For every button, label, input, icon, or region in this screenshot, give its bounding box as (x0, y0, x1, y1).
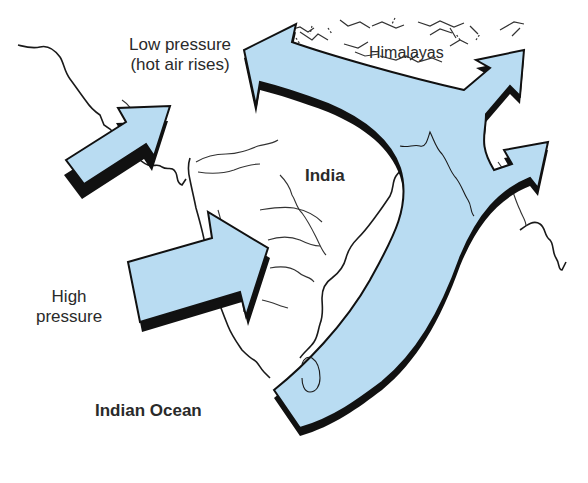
himalayas-label: Himalayas (369, 44, 444, 62)
wind-arrow-main-curved (244, 24, 548, 436)
india-label: India (305, 166, 345, 186)
monsoon-map (0, 0, 588, 483)
low-pressure-line2: (hot air rises) (129, 55, 231, 75)
high-pressure-line1: High (36, 287, 102, 307)
indian-ocean-label: Indian Ocean (95, 401, 202, 421)
high-pressure-line2: pressure (36, 307, 102, 327)
low-pressure-line1: Low pressure (129, 35, 231, 55)
wind-arrow-lower-west (128, 212, 270, 332)
low-pressure-label: Low pressure (hot air rises) (129, 35, 231, 74)
high-pressure-label: High pressure (36, 287, 102, 326)
wind-arrow-upper-west (64, 106, 170, 199)
